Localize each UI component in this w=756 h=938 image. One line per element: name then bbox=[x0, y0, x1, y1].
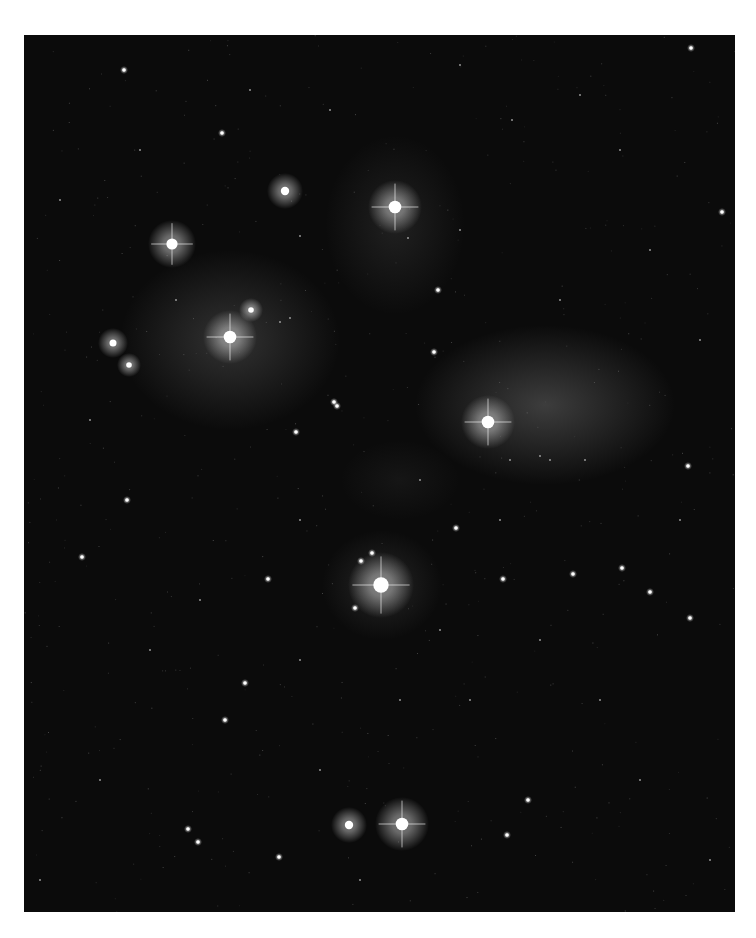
nebula-cloud bbox=[340, 440, 460, 520]
faint-star bbox=[289, 317, 291, 319]
faint-star bbox=[299, 659, 301, 661]
faint-star bbox=[584, 459, 586, 461]
bright-star bbox=[461, 395, 515, 449]
bright-star bbox=[267, 173, 303, 209]
faint-star bbox=[89, 419, 91, 421]
faint-star bbox=[459, 229, 461, 231]
star bbox=[720, 210, 724, 214]
nebula-cloud bbox=[415, 325, 675, 485]
faint-star bbox=[39, 879, 41, 881]
faint-star bbox=[599, 699, 601, 701]
star bbox=[335, 404, 339, 408]
faint-star bbox=[559, 299, 561, 301]
faint-star bbox=[279, 321, 281, 323]
star bbox=[501, 577, 505, 581]
faint-star bbox=[459, 64, 461, 66]
faint-star bbox=[399, 699, 401, 701]
star bbox=[686, 464, 690, 468]
star bbox=[648, 590, 652, 594]
faint-star bbox=[639, 779, 641, 781]
faint-star bbox=[249, 89, 251, 91]
faint-star bbox=[359, 879, 361, 881]
star bbox=[294, 430, 298, 434]
faint-star bbox=[549, 459, 551, 461]
faint-star bbox=[139, 149, 141, 151]
faint-star bbox=[199, 599, 201, 601]
sky-canvas bbox=[24, 35, 735, 912]
faint-star bbox=[511, 119, 513, 121]
star bbox=[526, 798, 530, 802]
faint-star bbox=[299, 519, 301, 521]
star bbox=[505, 833, 509, 837]
faint-star bbox=[499, 519, 501, 521]
faint-star bbox=[99, 779, 101, 781]
faint-star bbox=[579, 94, 581, 96]
faint-star bbox=[709, 859, 711, 861]
faint-star bbox=[149, 649, 151, 651]
star bbox=[243, 681, 247, 685]
bright-star bbox=[368, 180, 422, 234]
star bbox=[125, 498, 129, 502]
faint-star bbox=[469, 699, 471, 701]
faint-star bbox=[679, 519, 681, 521]
faint-star bbox=[699, 339, 701, 341]
faint-star bbox=[619, 149, 621, 151]
faint-star bbox=[407, 237, 409, 239]
bright-star bbox=[117, 353, 141, 377]
star bbox=[122, 68, 126, 72]
faint-star bbox=[539, 455, 541, 457]
star bbox=[80, 555, 84, 559]
star-cluster-photo bbox=[24, 35, 735, 912]
star bbox=[454, 526, 458, 530]
bright-star bbox=[98, 328, 128, 358]
star bbox=[277, 855, 281, 859]
faint-star bbox=[299, 235, 301, 237]
faint-star bbox=[649, 249, 651, 251]
bright-star bbox=[331, 807, 367, 843]
bright-star bbox=[239, 298, 263, 322]
faint-star bbox=[419, 479, 421, 481]
star bbox=[689, 46, 693, 50]
faint-star bbox=[175, 299, 177, 301]
star bbox=[571, 572, 575, 576]
faint-star bbox=[329, 109, 331, 111]
faint-star bbox=[439, 629, 441, 631]
star bbox=[620, 566, 624, 570]
faint-star bbox=[319, 769, 321, 771]
bright-star bbox=[375, 797, 429, 851]
star bbox=[196, 840, 200, 844]
star bbox=[223, 718, 227, 722]
star bbox=[432, 350, 436, 354]
faint-star bbox=[509, 459, 511, 461]
bright-star bbox=[148, 220, 196, 268]
star bbox=[186, 827, 190, 831]
faint-star bbox=[59, 199, 61, 201]
star bbox=[436, 288, 440, 292]
star bbox=[220, 131, 224, 135]
star bbox=[266, 577, 270, 581]
star bbox=[688, 616, 692, 620]
faint-star bbox=[539, 639, 541, 641]
bright-star bbox=[348, 552, 414, 618]
